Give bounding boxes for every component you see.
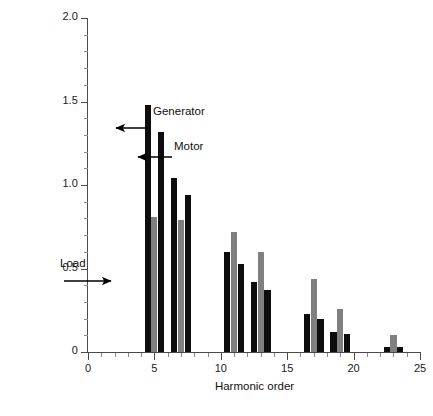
y-tick-label: 2.0 [62, 10, 78, 22]
x-tick-minor [247, 353, 248, 357]
x-tick-label: 10 [201, 362, 241, 374]
y-tick-mark [81, 185, 88, 186]
x-tick-mark [354, 353, 355, 360]
x-tick-label: 0 [68, 362, 108, 374]
x-tick-mark [154, 353, 155, 360]
bar-load-h13 [258, 252, 264, 352]
bar-motor-h17 [317, 319, 323, 352]
bar-generator-h13 [251, 282, 257, 352]
y-tick-label: 1.0 [62, 177, 78, 189]
bar-generator-h19 [330, 332, 336, 352]
x-tick-minor [115, 353, 116, 357]
annotation-label-generator: Generator [153, 105, 205, 117]
x-tick-minor [380, 353, 381, 357]
x-tick-minor [101, 353, 102, 357]
bar-generator-h7 [171, 178, 177, 352]
x-tick-minor [141, 353, 142, 357]
y-tick-mark [81, 18, 88, 19]
x-tick-minor [407, 353, 408, 357]
y-tick-label: 0 [72, 344, 78, 356]
bar-motor-h7 [185, 195, 191, 352]
x-tick-minor [274, 353, 275, 357]
x-tick-mark [221, 353, 222, 360]
x-tick-minor [208, 353, 209, 357]
annotation-label-load: Load [60, 257, 86, 269]
x-tick-label: 5 [134, 362, 174, 374]
y-tick-mark [81, 352, 88, 353]
x-tick-minor [194, 353, 195, 357]
x-tick-minor [340, 353, 341, 357]
x-tick-minor [327, 353, 328, 357]
x-tick-minor [234, 353, 235, 357]
bar-motor-h13 [264, 290, 270, 352]
bar-motor-h19 [344, 334, 350, 352]
y-tick-mark [81, 102, 88, 103]
bar-load-h5 [151, 217, 157, 352]
bar-generator-h23 [384, 347, 390, 352]
x-tick-minor [261, 353, 262, 357]
plot-area [88, 18, 420, 352]
bar-load-h23 [390, 335, 396, 352]
x-tick-minor [367, 353, 368, 357]
bar-load-h19 [337, 309, 343, 352]
x-tick-label: 25 [400, 362, 433, 374]
x-tick-minor [128, 353, 129, 357]
bar-load-h17 [311, 279, 317, 352]
x-tick-mark [88, 353, 89, 360]
bar-generator-h17 [304, 314, 310, 352]
x-tick-mark [287, 353, 288, 360]
bar-motor-h23 [397, 347, 403, 352]
x-tick-minor [300, 353, 301, 357]
x-tick-label: 15 [267, 362, 307, 374]
annotation-label-motor: Motor [174, 140, 203, 152]
x-tick-label: 20 [334, 362, 374, 374]
y-tick-label: 1.5 [62, 94, 78, 106]
x-tick-minor [181, 353, 182, 357]
x-axis-title: Harmonic order [88, 380, 421, 392]
bar-load-h11 [231, 232, 237, 352]
bar-load-h7 [178, 220, 184, 352]
bar-generator-h5 [145, 105, 151, 352]
bar-motor-h11 [238, 264, 244, 353]
x-tick-minor [168, 353, 169, 357]
x-tick-minor [314, 353, 315, 357]
chart-figure: 00.51.01.52.0 0510152025 Current spectru… [0, 0, 433, 416]
bar-generator-h11 [224, 252, 230, 352]
x-axis-line [88, 352, 421, 353]
x-tick-mark [420, 353, 421, 360]
bar-motor-h5 [158, 132, 164, 352]
x-tick-minor [393, 353, 394, 357]
